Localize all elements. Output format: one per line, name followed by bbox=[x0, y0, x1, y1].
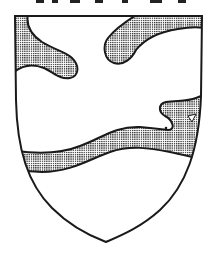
upper-right-charge bbox=[105, 14, 204, 64]
shield-charges bbox=[10, 14, 206, 172]
wavy-band-charge bbox=[10, 94, 206, 172]
upper-left-charge bbox=[12, 14, 77, 78]
head-eye bbox=[165, 127, 168, 130]
coat-of-arms-shield bbox=[0, 0, 214, 259]
